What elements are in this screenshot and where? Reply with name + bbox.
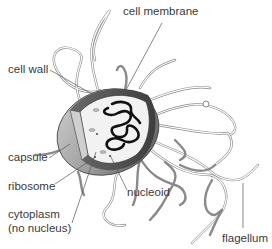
label-cell-membrane: cell membrane bbox=[123, 5, 198, 18]
ribosome-dot bbox=[89, 129, 95, 132]
ribosome-dot bbox=[93, 109, 99, 112]
label-nucleoid: nucleoid bbox=[127, 186, 170, 199]
flagellum-tip bbox=[203, 101, 209, 107]
flagellum-strand bbox=[104, 170, 125, 226]
flagellum-strand bbox=[78, 172, 84, 195]
ribosome-dot bbox=[96, 133, 98, 135]
label-cytoplasm: cytoplasm bbox=[8, 208, 60, 221]
flagellum-strand bbox=[117, 66, 126, 90]
label-capsule: capsule bbox=[8, 151, 48, 164]
leader-cell-wall bbox=[50, 70, 92, 94]
label-cytoplasm-note: (no nucleus) bbox=[8, 222, 71, 235]
label-flagellum: flagellum bbox=[222, 232, 268, 245]
label-cell-wall: cell wall bbox=[8, 63, 48, 76]
flagellum-strand bbox=[140, 60, 175, 88]
flagellum-strand bbox=[140, 60, 175, 88]
ribosome-dot bbox=[100, 151, 106, 154]
label-ribosome: ribosome bbox=[8, 180, 55, 193]
flagellum-strand bbox=[150, 87, 210, 100]
